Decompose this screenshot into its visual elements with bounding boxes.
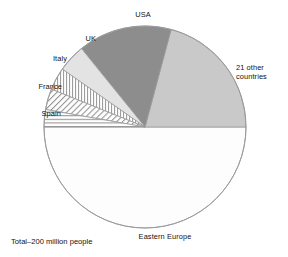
- chart-footnote: Total–200 million people: [11, 237, 92, 246]
- slice-label-uk: UK: [62, 34, 96, 43]
- slice-label-eastern-europe: Eastern Europe: [110, 232, 220, 241]
- slice-label-france: France: [14, 82, 62, 91]
- pie-slice-eastern-europe[interactable]: [44, 127, 246, 228]
- pie-chart-figure: USA 21 other countries UK Italy France S…: [0, 0, 288, 257]
- slice-label-italy: Italy: [29, 54, 67, 63]
- pie-chart-canvas: [0, 0, 288, 257]
- pie-slices-group: [44, 26, 246, 228]
- slice-label-spain: Spain: [17, 109, 61, 118]
- slice-label-21-other-countries: 21 other countries: [236, 63, 286, 81]
- slice-label-usa: USA: [113, 10, 173, 19]
